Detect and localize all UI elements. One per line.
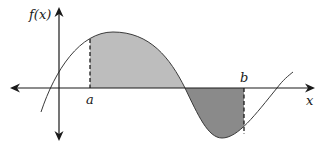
lower-bound-label: a	[86, 92, 94, 107]
function-area-diagram: f(x) x a b	[0, 0, 324, 146]
y-axis-label: f(x)	[28, 7, 51, 22]
positive-area-region	[41, 32, 293, 138]
x-axis-label: x	[306, 93, 314, 108]
upper-bound-label: b	[240, 70, 248, 85]
y-axis	[55, 7, 64, 141]
